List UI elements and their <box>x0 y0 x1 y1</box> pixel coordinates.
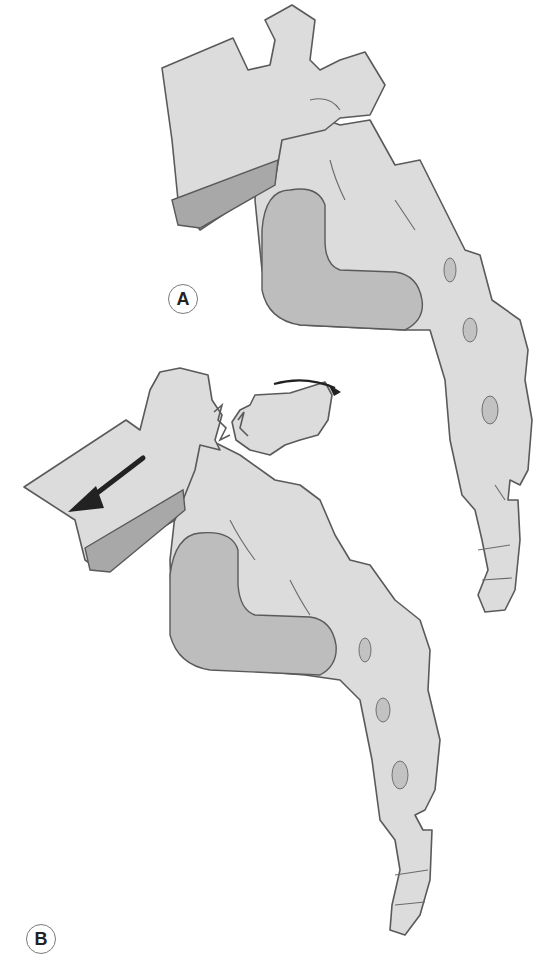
panel-b-illustration <box>24 368 440 935</box>
sacrum-b <box>170 435 440 935</box>
posterior-elements-b <box>232 382 332 455</box>
sacral-foramen <box>463 318 477 342</box>
panel-label-a: A <box>168 284 198 314</box>
sacral-foramen <box>482 396 498 424</box>
sacral-foramen <box>392 761 408 789</box>
sacral-foramen <box>444 258 456 282</box>
spine-diagram <box>0 0 546 964</box>
sacral-foramen <box>376 698 390 722</box>
sacral-foramen <box>359 638 371 662</box>
panel-label-b: B <box>26 924 56 954</box>
